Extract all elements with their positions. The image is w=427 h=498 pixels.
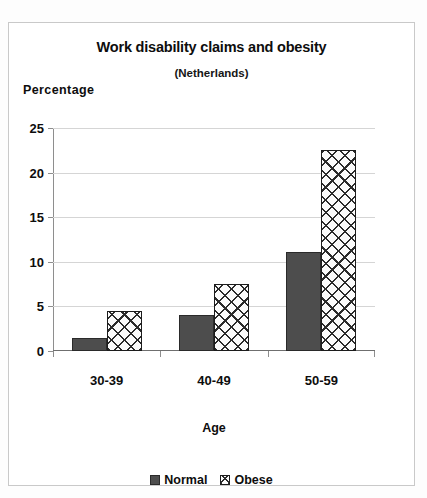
bar-normal-40-49[interactable] bbox=[179, 315, 214, 351]
bar-obese-40-49[interactable] bbox=[214, 284, 249, 351]
bar-groups: 30-3940-4950-59 bbox=[53, 128, 375, 351]
bar-normal-30-39[interactable] bbox=[72, 338, 107, 351]
crosshatch-swatch bbox=[220, 475, 230, 485]
solid-dark-gray-swatch bbox=[150, 475, 160, 485]
bar-normal-50-59[interactable] bbox=[286, 252, 321, 351]
x-axis-title: Age bbox=[53, 421, 375, 435]
legend-item-obese[interactable]: Obese bbox=[220, 473, 272, 487]
y-axis-tick-label: 15 bbox=[30, 210, 44, 225]
x-axis-tick-mark bbox=[160, 351, 161, 357]
x-axis-tick-mark bbox=[374, 351, 375, 357]
chart-subtitle: (Netherlands) bbox=[9, 67, 414, 79]
bar-obese-50-59[interactable] bbox=[321, 150, 356, 351]
y-axis-tick-label: 5 bbox=[37, 299, 44, 314]
chart-legend: NormalObese bbox=[9, 473, 414, 487]
bar-group: 40-49 bbox=[160, 128, 267, 351]
x-axis-tick-mark bbox=[53, 351, 54, 357]
x-axis-category-label: 40-49 bbox=[160, 373, 267, 388]
legend-item-label: Obese bbox=[234, 473, 272, 487]
x-axis-category-label: 50-59 bbox=[268, 373, 375, 388]
chart-title: Work disability claims and obesity bbox=[9, 39, 414, 55]
legend-item-normal[interactable]: Normal bbox=[150, 473, 207, 487]
y-axis-tick-label: 10 bbox=[30, 254, 44, 269]
plot-area: 0510152025 30-3940-4950-59 bbox=[53, 128, 375, 351]
y-axis-title: Percentage bbox=[23, 83, 94, 97]
bar-group: 30-39 bbox=[53, 128, 160, 351]
y-axis-tick-label: 0 bbox=[37, 344, 44, 359]
y-axis-tick-label: 20 bbox=[30, 165, 44, 180]
x-axis-tick-mark bbox=[268, 351, 269, 357]
chart-container: Work disability claims and obesity (Neth… bbox=[8, 22, 415, 486]
x-axis-category-label: 30-39 bbox=[53, 373, 160, 388]
bar-group: 50-59 bbox=[268, 128, 375, 351]
legend-item-label: Normal bbox=[164, 473, 207, 487]
bar-obese-30-39[interactable] bbox=[107, 311, 142, 351]
y-axis-tick-label: 25 bbox=[30, 121, 44, 136]
